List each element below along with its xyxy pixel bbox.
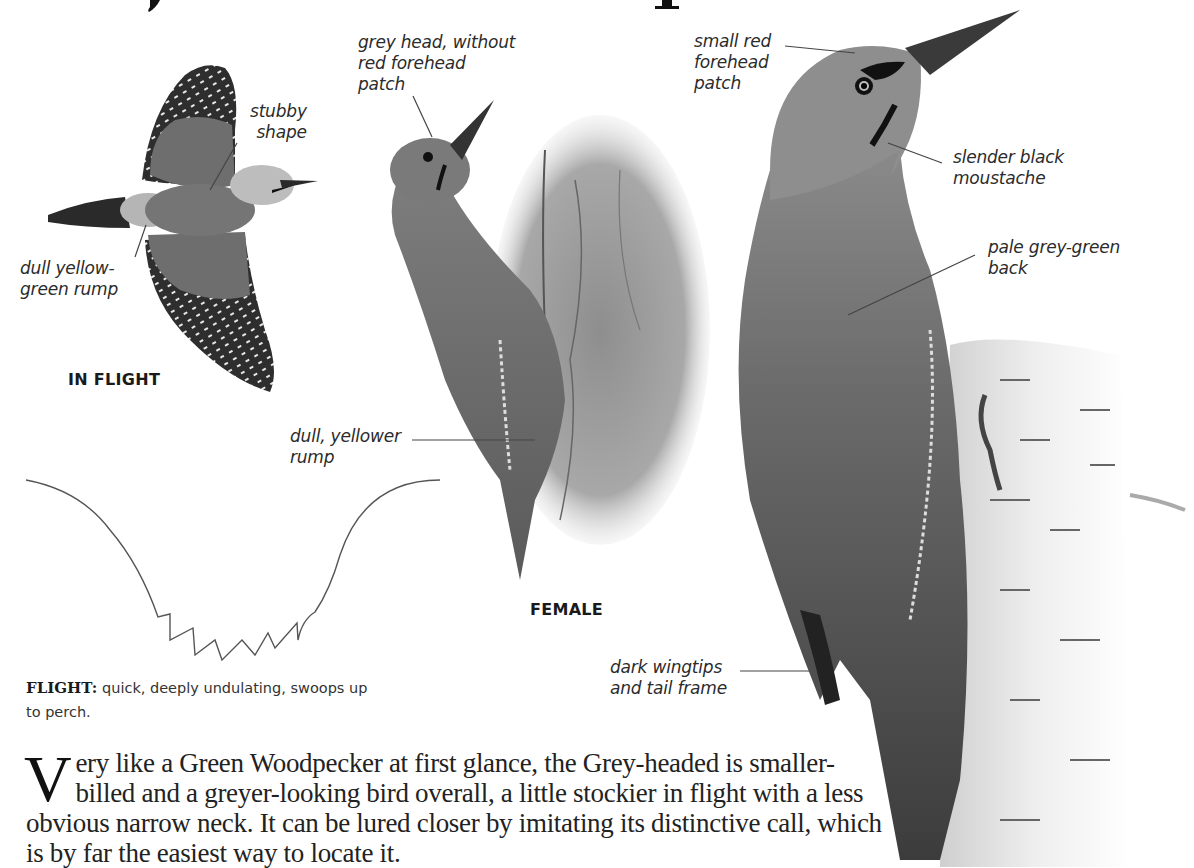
flight-note-heading: FLIGHT: xyxy=(26,679,97,697)
label-stubby-shape: stubby shape xyxy=(250,101,307,143)
label-pale-back: pale grey-green back xyxy=(988,237,1120,279)
flight-path-diagram xyxy=(26,480,440,660)
caption-female: FEMALE xyxy=(530,600,603,619)
species-description: Very like a Green Woodpecker at first gl… xyxy=(26,748,886,868)
drop-cap: V xyxy=(24,751,71,807)
flight-pattern-note: FLIGHT: quick, deeply undulating, swoops… xyxy=(26,676,386,724)
description-text: ery like a Green Woodpecker at first gla… xyxy=(26,748,882,868)
label-small-red-forehead: small red forehead patch xyxy=(694,31,771,94)
label-female-rump: dull, yellower rump xyxy=(290,426,401,468)
label-grey-head: grey head, without red forehead patch xyxy=(358,32,515,95)
caption-in-flight: IN FLIGHT xyxy=(68,370,160,389)
label-slender-moustache: slender black moustache xyxy=(953,147,1064,189)
label-dark-wingtips: dark wingtips and tail frame xyxy=(610,657,727,699)
birch-trunk-illustration xyxy=(940,339,1185,867)
label-flight-rump: dull yellow- green rump xyxy=(20,258,118,300)
